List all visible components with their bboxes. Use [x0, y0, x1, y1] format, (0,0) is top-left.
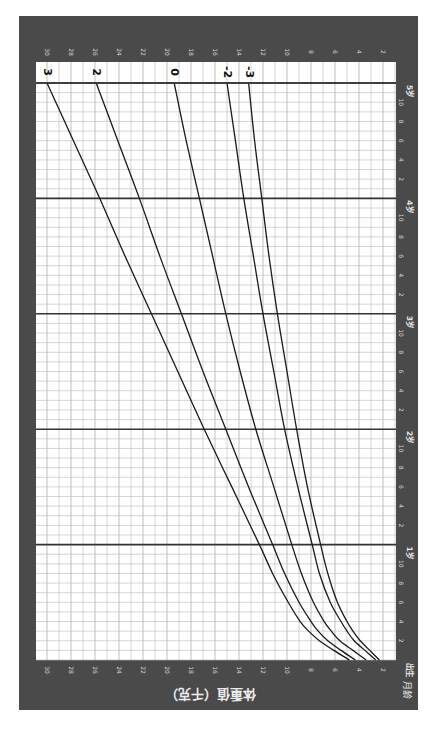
age-month-label: 8	[398, 466, 405, 470]
age-month-label: 2	[398, 293, 405, 297]
weight-tick-label-top: 2	[380, 50, 387, 54]
age-month-label: 4	[398, 620, 405, 624]
age-month-label: 8	[398, 350, 405, 354]
weight-tick-label-top: 26	[92, 48, 99, 56]
growth-chart: 2244668810101212141416161818202022222424…	[0, 0, 437, 733]
age-month-label: 6	[398, 600, 405, 604]
age-month-label: 10	[398, 329, 405, 337]
age-month-label: 4	[398, 158, 405, 162]
weight-tick-label-bottom: 20	[164, 666, 171, 674]
weight-tick-label-top: 20	[164, 48, 171, 56]
weight-tick-label-top: 16	[212, 48, 219, 56]
age-year-label: 4岁	[405, 200, 415, 212]
sd-label: -3	[243, 66, 256, 78]
weight-tick-label-bottom: 30	[44, 666, 51, 674]
weight-tick-label-bottom: 12	[260, 666, 267, 674]
weight-tick-label-bottom: 18	[188, 666, 195, 674]
weight-tick-label-top: 24	[116, 48, 123, 56]
sd-label: 2	[90, 68, 103, 76]
age-year-label: 3岁	[405, 316, 415, 328]
age-month-label: 6	[398, 370, 405, 374]
age-month-label: 6	[398, 485, 405, 489]
weight-tick-label-top: 4	[356, 50, 363, 54]
weight-tick-label-top: 30	[44, 48, 51, 56]
weight-tick-label-bottom: 4	[356, 668, 363, 672]
weight-tick-label-bottom: 22	[140, 666, 147, 674]
age-month-label: 2	[398, 177, 405, 181]
age-month-label: 8	[398, 581, 405, 585]
plot-area	[36, 62, 396, 660]
weight-tick-label-bottom: 24	[116, 666, 123, 674]
sd-label: 0	[168, 68, 181, 76]
age-year-label: 1岁	[405, 546, 415, 558]
age-month-label: 2	[398, 408, 405, 412]
age-year-label: 出生	[405, 663, 415, 678]
sd-label: -2	[221, 66, 234, 78]
age-month-label: 10	[398, 98, 405, 106]
age-month-label: 4	[398, 273, 405, 277]
age-month-label: 2	[398, 639, 405, 643]
weight-tick-label-top: 12	[260, 48, 267, 56]
sd-label: 3	[41, 68, 54, 76]
weight-tick-label-bottom: 28	[68, 666, 75, 674]
weight-axis-title: 体重值（千克）	[165, 687, 256, 702]
weight-tick-label-bottom: 6	[332, 668, 339, 672]
age-month-label: 10	[398, 445, 405, 453]
age-month-label: 6	[398, 139, 405, 143]
weight-tick-label-bottom: 10	[284, 666, 291, 674]
weight-tick-label-bottom: 16	[212, 666, 219, 674]
weight-tick-label-top: 8	[308, 50, 315, 54]
age-month-label: 4	[398, 389, 405, 393]
age-year-label: 5岁	[405, 85, 415, 97]
age-month-label: 8	[398, 235, 405, 239]
weight-tick-label-bottom: 14	[236, 666, 243, 674]
weight-tick-label-bottom: 8	[308, 668, 315, 672]
age-axis-title: 月龄	[402, 681, 413, 699]
weight-tick-label-top: 10	[284, 48, 291, 56]
weight-tick-label-bottom: 2	[380, 668, 387, 672]
weight-tick-label-top: 22	[140, 48, 147, 56]
age-month-label: 6	[398, 254, 405, 258]
age-month-label: 10	[398, 560, 405, 568]
weight-tick-label-top: 18	[188, 48, 195, 56]
age-month-label: 2	[398, 523, 405, 527]
age-month-label: 4	[398, 504, 405, 508]
weight-tick-label-top: 28	[68, 48, 75, 56]
age-month-label: 8	[398, 120, 405, 124]
weight-tick-label-top: 6	[332, 50, 339, 54]
weight-tick-label-top: 14	[236, 48, 243, 56]
age-month-label: 10	[398, 214, 405, 222]
weight-tick-label-bottom: 26	[92, 666, 99, 674]
age-year-label: 2岁	[405, 431, 415, 443]
